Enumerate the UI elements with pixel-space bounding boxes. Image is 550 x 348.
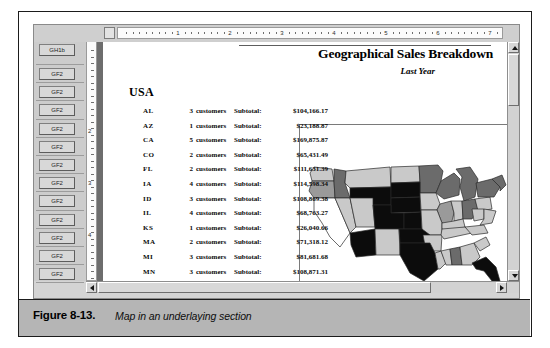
ruler-number: 7 bbox=[488, 29, 491, 38]
section-button-gf2-5[interactable]: GF2 bbox=[39, 141, 75, 153]
ruler-tick bbox=[91, 122, 94, 123]
section-button-gf2-4[interactable]: GF2 bbox=[39, 123, 75, 135]
detail-state-code: MI bbox=[143, 253, 165, 261]
ruler-tick bbox=[91, 187, 94, 188]
detail-subtotal-amount: $108,869.38 bbox=[266, 195, 328, 203]
section-divider bbox=[36, 246, 84, 247]
section-button-gf2-10[interactable]: GF2 bbox=[39, 232, 75, 244]
section-button-gf2-2[interactable]: GF2 bbox=[39, 86, 75, 98]
horizontal-scroll-thumb[interactable] bbox=[98, 282, 431, 293]
ruler-tick bbox=[321, 32, 322, 34]
section-button-gf2-7[interactable]: GF2 bbox=[39, 177, 75, 189]
ruler-number: 5 bbox=[384, 29, 387, 38]
design-canvas[interactable]: Geographical Sales Breakdown Last Year U… bbox=[97, 42, 507, 281]
horizontal-ruler-strip: 1234567 bbox=[34, 25, 519, 42]
ruler-number: 6 bbox=[436, 29, 439, 38]
detail-row[interactable]: MN3customersSubtotal:$108,871.31 bbox=[103, 266, 507, 281]
detail-subtotal-label: Subtotal: bbox=[234, 165, 262, 173]
detail-row[interactable]: KS1customersSubtotal:$26,040.66 bbox=[103, 222, 507, 237]
ruler-tick bbox=[91, 219, 94, 220]
detail-subtotal-amount: $26,040.66 bbox=[266, 224, 328, 232]
ruler-tick bbox=[315, 32, 316, 34]
ruler-tick bbox=[91, 135, 94, 136]
ruler-tick bbox=[191, 32, 192, 34]
scrollbar-corner bbox=[508, 282, 519, 293]
ruler-tick bbox=[425, 32, 426, 34]
section-button-gh1b-0[interactable]: GH1b bbox=[39, 44, 75, 56]
detail-customer-count: 2 bbox=[185, 165, 193, 173]
section-divider bbox=[36, 119, 84, 120]
detail-subtotal-amount: $108,871.31 bbox=[266, 268, 328, 276]
detail-row[interactable]: IA4customersSubtotal:$114,598.34 bbox=[103, 178, 507, 193]
detail-subtotal-label: Subtotal: bbox=[234, 238, 262, 246]
detail-row[interactable]: MA2customersSubtotal:$71,318.12 bbox=[103, 236, 507, 251]
ruler-tick bbox=[91, 206, 94, 207]
detail-state-code: CA bbox=[143, 136, 165, 144]
ruler-tick bbox=[354, 32, 355, 34]
detail-state-code: CO bbox=[143, 151, 165, 159]
ruler-tick bbox=[419, 32, 420, 34]
section-button-gf2-3[interactable]: GF2 bbox=[39, 104, 75, 116]
ruler-tick bbox=[146, 32, 147, 34]
section-button-gf2-6[interactable]: GF2 bbox=[39, 159, 75, 171]
detail-row[interactable]: MI3customersSubtotal:$81,681.68 bbox=[103, 251, 507, 266]
ruler-corner-button[interactable] bbox=[104, 27, 115, 39]
horizontal-ruler[interactable]: 1234567 bbox=[117, 27, 503, 39]
ruler-tick bbox=[360, 32, 361, 34]
ruler-tick bbox=[269, 32, 270, 34]
report-page[interactable]: Geographical Sales Breakdown Last Year U… bbox=[103, 42, 507, 281]
ruler-tick bbox=[295, 32, 296, 34]
detail-subtotal-label: Subtotal: bbox=[234, 268, 262, 276]
ruler-tick bbox=[91, 174, 94, 175]
detail-subtotal-amount: $169,875.87 bbox=[266, 136, 328, 144]
ruler-tick bbox=[91, 245, 94, 246]
detail-row[interactable]: AL3customersSubtotal:$104,166.17 bbox=[103, 105, 507, 120]
scroll-down-button[interactable] bbox=[508, 270, 519, 281]
detail-subtotal-label: Subtotal: bbox=[234, 107, 262, 115]
section-button-gf2-9[interactable]: GF2 bbox=[39, 214, 75, 226]
scroll-left-button[interactable] bbox=[86, 282, 97, 293]
vertical-scrollbar[interactable] bbox=[507, 42, 519, 281]
detail-row[interactable]: ID3customersSubtotal:$108,869.38 bbox=[103, 193, 507, 208]
ruler-tick bbox=[91, 50, 94, 51]
scroll-down-arrow-icon bbox=[512, 274, 518, 278]
ruler-tick bbox=[406, 32, 407, 34]
detail-row[interactable]: CA5customersSubtotal:$169,875.87 bbox=[103, 134, 507, 149]
scroll-right-button[interactable] bbox=[496, 282, 507, 293]
ruler-tick bbox=[91, 83, 94, 84]
ruler-tick bbox=[328, 32, 329, 34]
section-divider bbox=[36, 155, 84, 156]
detail-subtotal-label: Subtotal: bbox=[234, 253, 262, 261]
ruler-tick bbox=[464, 32, 465, 34]
detail-row[interactable]: AZ1customersSubtotal:$23,188.87 bbox=[103, 120, 507, 135]
section-divider bbox=[36, 100, 84, 101]
figure-caption-label: Figure 8-13. bbox=[33, 309, 95, 321]
detail-customers-label: customers bbox=[196, 165, 226, 173]
ruler-number: 3 bbox=[280, 29, 283, 38]
detail-subtotal-label: Subtotal: bbox=[234, 224, 262, 232]
detail-state-code: IL bbox=[143, 209, 165, 217]
ruler-tick bbox=[484, 32, 485, 34]
detail-customer-count: 3 bbox=[185, 195, 193, 203]
section-button-gf2-8[interactable]: GF2 bbox=[39, 195, 75, 207]
detail-subtotal-amount: $71,318.12 bbox=[266, 238, 328, 246]
ruler-tick bbox=[91, 278, 94, 279]
scroll-left-arrow-icon bbox=[90, 285, 94, 291]
ruler-tick bbox=[341, 32, 342, 34]
vertical-scroll-thumb[interactable] bbox=[508, 54, 519, 106]
section-button-gf2-11[interactable]: GF2 bbox=[39, 250, 75, 262]
section-divider bbox=[36, 282, 84, 283]
detail-row[interactable]: IL4customersSubtotal:$68,763.27 bbox=[103, 207, 507, 222]
ruler-tick bbox=[133, 32, 134, 34]
detail-row[interactable]: CO2customersSubtotal:$65,431.49 bbox=[103, 149, 507, 164]
horizontal-scrollbar[interactable] bbox=[86, 281, 519, 293]
ruler-tick bbox=[91, 265, 94, 266]
ruler-tick bbox=[91, 109, 94, 110]
section-button-gf2-1[interactable]: GF2 bbox=[39, 68, 75, 80]
section-button-gf2-12[interactable]: GF2 bbox=[39, 268, 75, 280]
vertical-ruler[interactable]: 234 bbox=[86, 42, 97, 281]
detail-customer-count: 4 bbox=[185, 180, 193, 188]
detail-row[interactable]: FL2customersSubtotal:$111,631.39 bbox=[103, 163, 507, 178]
scroll-up-button[interactable] bbox=[508, 42, 519, 53]
detail-customers-label: customers bbox=[196, 195, 226, 203]
